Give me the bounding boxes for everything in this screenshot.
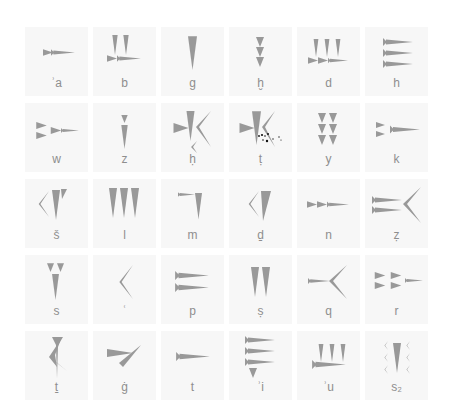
letter-label: k (365, 152, 428, 166)
glyph-ayin-icon (93, 255, 156, 307)
letter-label: r (365, 304, 428, 318)
letter-tile-th: ṯ (25, 331, 88, 400)
letter-label: g (161, 76, 224, 90)
glyph-t-icon (161, 331, 224, 383)
glyph-a-icon (25, 27, 88, 79)
glyph-g-icon (161, 27, 224, 79)
letter-label: q (297, 304, 360, 318)
letter-label: m (161, 228, 224, 242)
letter-label: ẓ (365, 228, 428, 242)
letter-tile-i: ʾi (229, 331, 292, 400)
letter-label: š (25, 228, 88, 242)
glyph-gh-icon (93, 331, 156, 383)
letter-label: h (365, 76, 428, 90)
glyph-d-icon (297, 27, 360, 79)
glyph-w-icon (25, 103, 88, 155)
glyph-dh-icon (229, 179, 292, 231)
letter-tile-d: d (297, 27, 360, 96)
glyph-k-icon (365, 103, 428, 155)
glyph-s2-icon (365, 331, 428, 383)
glyph-p-icon (161, 255, 224, 307)
letter-tile-l: l (93, 179, 156, 248)
glyph-th-icon (25, 331, 88, 383)
glyph-h-icon (365, 27, 428, 79)
glyph-l-icon (93, 179, 156, 231)
letter-tile-t: t (161, 331, 224, 400)
letter-label: p (161, 304, 224, 318)
letter-label: b (93, 76, 156, 90)
letter-tile-m: m (161, 179, 224, 248)
letter-tile-p: p (161, 255, 224, 324)
letter-label: ḫ (229, 76, 292, 90)
letter-label: ʾu (297, 380, 360, 394)
letter-tile-z: z (93, 103, 156, 172)
letter-label: ġ (93, 380, 156, 394)
letter-tile-g: g (161, 27, 224, 96)
letter-tile-gh: ġ (93, 331, 156, 400)
glyph-u-icon (297, 331, 360, 383)
glyph-sh-icon (25, 179, 88, 231)
letter-label: s₂ (365, 380, 428, 394)
letter-label: z (93, 152, 156, 166)
letter-tile-s: s (25, 255, 88, 324)
letter-label: n (297, 228, 360, 242)
letter-tile-w: w (25, 103, 88, 172)
glyph-t-dot-icon (229, 103, 292, 155)
letter-label: ṣ (229, 304, 292, 318)
glyph-h-breve-icon (229, 27, 292, 79)
letter-label: w (25, 152, 88, 166)
letter-label: d (297, 76, 360, 90)
glyph-y-icon (297, 103, 360, 155)
letter-label: ʾa (25, 76, 88, 90)
letter-label: l (93, 228, 156, 242)
letter-tile-a: ʾa (25, 27, 88, 96)
letter-tile-dh: ḏ (229, 179, 292, 248)
letter-tile-n: n (297, 179, 360, 248)
letter-label: ʿ (93, 304, 156, 318)
letter-label: ḏ (229, 228, 292, 242)
glyph-r-icon (365, 255, 428, 307)
letter-label: t (161, 380, 224, 394)
letter-label: ḥ (161, 152, 224, 166)
letter-tile-h-dot: ḥ (161, 103, 224, 172)
letter-tile-z-dot: ẓ (365, 179, 428, 248)
letter-tile-y: y (297, 103, 360, 172)
letter-tile-h-breve: ḫ (229, 27, 292, 96)
glyph-n-icon (297, 179, 360, 231)
letter-label: ṭ (229, 152, 292, 166)
glyph-b-icon (93, 27, 156, 79)
letter-label: s (25, 304, 88, 318)
glyph-h-dot-icon (161, 103, 224, 155)
glyph-s-icon (25, 255, 88, 307)
glyph-s-dot-icon (229, 255, 292, 307)
letter-tile-s-dot: ṣ (229, 255, 292, 324)
letter-tile-s2: s₂ (365, 331, 428, 400)
glyph-z-icon (93, 103, 156, 155)
letter-tile-ayin: ʿ (93, 255, 156, 324)
alphabet-grid: ʾa b g ḫ d (25, 27, 428, 400)
letter-label: ʾi (229, 380, 292, 394)
glyph-q-icon (297, 255, 360, 307)
glyph-i-icon (229, 331, 292, 383)
letter-tile-h: h (365, 27, 428, 96)
letter-tile-r: r (365, 255, 428, 324)
letter-tile-u: ʾu (297, 331, 360, 400)
letter-tile-b: b (93, 27, 156, 96)
glyph-z-dot-icon (365, 179, 428, 231)
letter-tile-t-dot: ṭ (229, 103, 292, 172)
letter-tile-q: q (297, 255, 360, 324)
letter-tile-sh: š (25, 179, 88, 248)
letter-label: ṯ (25, 380, 88, 394)
glyph-m-icon (161, 179, 224, 231)
letter-tile-k: k (365, 103, 428, 172)
letter-label: y (297, 152, 360, 166)
